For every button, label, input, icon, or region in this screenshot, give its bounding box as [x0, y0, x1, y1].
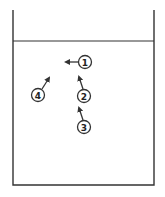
- marker-4: 4: [32, 78, 50, 102]
- marker-3: 3: [78, 108, 91, 134]
- marker-label: 3: [81, 123, 87, 133]
- marker-label: 1: [82, 58, 88, 68]
- marker-label: 4: [35, 91, 41, 101]
- arrow-icon: [42, 78, 49, 89]
- arrow-icon: [79, 77, 83, 89]
- marker-1: 1: [66, 56, 92, 69]
- marker-2: 2: [78, 77, 91, 103]
- markers: 1234: [32, 56, 92, 134]
- beaker-diagram: 1234: [0, 0, 165, 197]
- arrow-icon: [79, 108, 83, 120]
- marker-label: 2: [81, 92, 87, 102]
